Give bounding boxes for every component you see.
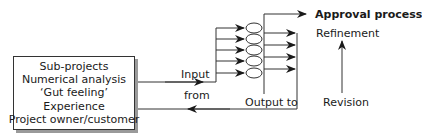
coil-icon bbox=[246, 23, 262, 33]
refinement-label: Refinement bbox=[316, 27, 379, 40]
approval-process-label: Approval process bbox=[315, 8, 422, 21]
coil-icon bbox=[246, 34, 262, 44]
coil-icon bbox=[246, 68, 262, 78]
coil-icon bbox=[246, 45, 262, 55]
output-to-label: Output to bbox=[245, 96, 298, 109]
revision-label: Revision bbox=[323, 96, 369, 109]
source-item-subprojects: Sub-projects bbox=[40, 60, 109, 73]
source-box: Sub-projects Numerical analysis ‘Gut fee… bbox=[13, 56, 135, 130]
coil-icon bbox=[246, 56, 262, 66]
source-item-gut-feeling: ‘Gut feeling’ bbox=[40, 86, 108, 99]
source-item-experience: Experience bbox=[43, 100, 104, 113]
input-label: Input bbox=[181, 68, 209, 81]
source-item-numerical-analysis: Numerical analysis bbox=[22, 73, 126, 86]
source-item-project-owner: Project owner/customer bbox=[9, 113, 140, 126]
from-label: from bbox=[184, 89, 210, 102]
